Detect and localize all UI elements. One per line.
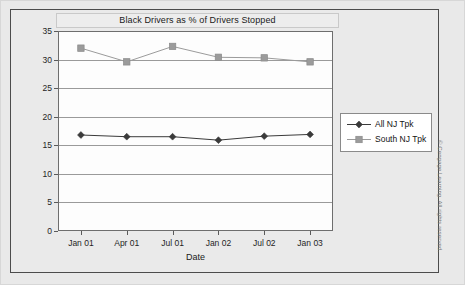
legend-item-south-nj-tpk[interactable]: South NJ Tpk bbox=[344, 132, 429, 147]
x-tick-mark bbox=[173, 231, 174, 235]
x-tick-label: Apr 01 bbox=[104, 238, 150, 248]
chart-title: Black Drivers as % of Drivers Stopped bbox=[56, 13, 339, 28]
chart-screenshot: Black Drivers as % of Drivers Stopped 05… bbox=[0, 0, 465, 285]
legend-diamond-icon bbox=[346, 117, 372, 132]
copyright-notice: © Cengage Learning. All rights reserved. bbox=[437, 140, 443, 252]
legend-square-icon bbox=[346, 132, 372, 147]
x-tick-mark bbox=[81, 231, 82, 235]
y-tick-label: 30 bbox=[30, 56, 52, 64]
x-tick-label: Jan 03 bbox=[287, 238, 333, 248]
y-tick-mark bbox=[54, 117, 58, 118]
x-tick-mark bbox=[264, 231, 265, 235]
data-point-square bbox=[356, 136, 362, 142]
chart-legend: All NJ TpkSouth NJ Tpk bbox=[340, 113, 432, 152]
gridline bbox=[59, 117, 332, 118]
gridline bbox=[59, 145, 332, 146]
y-tick-mark bbox=[54, 31, 58, 32]
x-tick-label: Jan 01 bbox=[58, 238, 104, 248]
gridline bbox=[59, 174, 332, 175]
gridline bbox=[59, 60, 332, 61]
y-tick-mark bbox=[54, 145, 58, 146]
gridline bbox=[59, 88, 332, 89]
plot-area bbox=[58, 31, 333, 231]
legend-label: All NJ Tpk bbox=[375, 117, 414, 132]
y-tick-mark bbox=[54, 88, 58, 89]
x-tick-label: Jul 01 bbox=[150, 238, 196, 248]
y-tick-label: 20 bbox=[30, 113, 52, 121]
y-tick-label: 0 bbox=[30, 227, 52, 235]
x-axis-title: Date bbox=[58, 252, 333, 262]
x-tick-mark bbox=[310, 231, 311, 235]
y-tick-label: 5 bbox=[30, 198, 52, 206]
y-tick-mark bbox=[54, 174, 58, 175]
x-tick-mark bbox=[218, 231, 219, 235]
legend-item-all-nj-tpk[interactable]: All NJ Tpk bbox=[344, 117, 429, 132]
y-tick-mark bbox=[54, 231, 58, 232]
y-tick-label: 25 bbox=[30, 84, 52, 92]
y-tick-label: 15 bbox=[30, 141, 52, 149]
y-tick-mark bbox=[54, 202, 58, 203]
x-tick-label: Jul 02 bbox=[241, 238, 287, 248]
data-point-diamond bbox=[356, 121, 363, 128]
gridline bbox=[59, 202, 332, 203]
y-tick-mark bbox=[54, 60, 58, 61]
x-tick-label: Jan 02 bbox=[195, 238, 241, 248]
x-tick-mark bbox=[127, 231, 128, 235]
y-tick-label: 10 bbox=[30, 170, 52, 178]
y-tick-label: 35 bbox=[30, 27, 52, 35]
legend-label: South NJ Tpk bbox=[375, 132, 426, 147]
